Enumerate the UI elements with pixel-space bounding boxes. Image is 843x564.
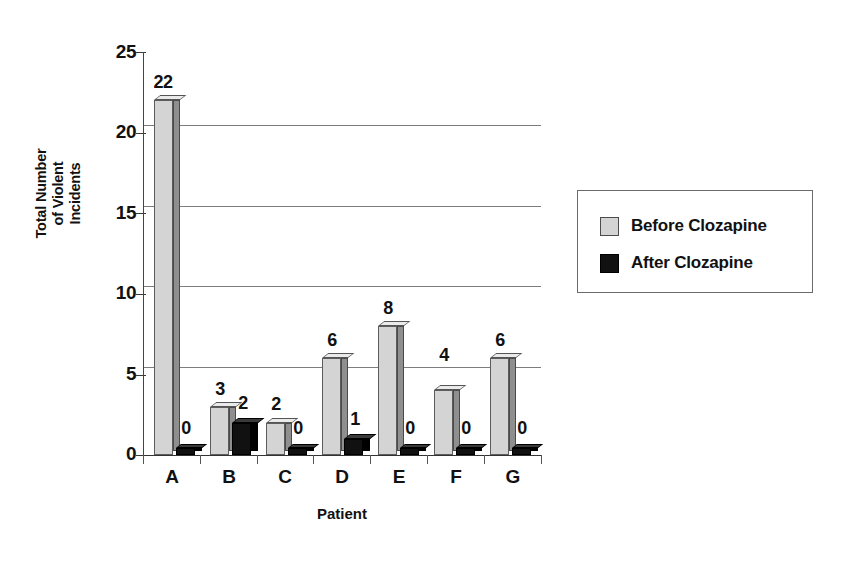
bar-front xyxy=(456,448,475,455)
bar-before-D xyxy=(322,358,341,455)
bar-label-after-D: 1 xyxy=(338,409,372,430)
legend-swatch-before-clozapine xyxy=(600,217,619,236)
y-tick-label-15: 15 xyxy=(96,202,136,224)
y-tick-mark-10 xyxy=(136,294,146,295)
y-tick-label-10: 10 xyxy=(96,282,136,304)
bar-side xyxy=(251,423,258,451)
bar-label-before-A: 22 xyxy=(146,72,180,93)
legend-label-before-clozapine: Before Clozapine xyxy=(631,216,767,236)
bar-front xyxy=(176,448,195,455)
bar-front xyxy=(232,423,251,455)
bar-after-G xyxy=(512,448,531,455)
bar-front xyxy=(210,407,229,455)
x-tick-label-D: D xyxy=(322,466,362,488)
bar-chart-figure: Total Number of Violent Incidents 25 20 … xyxy=(0,0,843,564)
bar-label-after-B: 2 xyxy=(226,393,260,414)
bar-label-before-D: 6 xyxy=(315,330,349,351)
legend-label-after-clozapine: After Clozapine xyxy=(631,253,753,273)
bar-after-E xyxy=(400,448,419,455)
x-tick-label-E: E xyxy=(379,466,419,488)
y-tick-label-5: 5 xyxy=(96,363,136,385)
bar-top xyxy=(490,353,522,358)
x-tick-mark-7 xyxy=(541,455,542,464)
x-tick-mark-4 xyxy=(370,455,371,464)
legend-item-after-clozapine: After Clozapine xyxy=(600,253,753,273)
x-tick-mark-1 xyxy=(200,455,201,464)
legend-item-before-clozapine: Before Clozapine xyxy=(600,216,767,236)
bar-top xyxy=(322,353,354,358)
gridline-15 xyxy=(144,206,541,207)
x-tick-label-C: C xyxy=(265,466,305,488)
x-tick-mark-0 xyxy=(143,455,144,464)
y-tick-mark-20 xyxy=(136,133,146,134)
legend-swatch-after-clozapine xyxy=(600,254,619,273)
bar-front xyxy=(512,448,531,455)
x-tick-mark-5 xyxy=(427,455,428,464)
bar-front xyxy=(490,358,509,455)
bar-front xyxy=(154,100,173,455)
y-tick-label-25: 25 xyxy=(96,41,136,63)
x-axis-title: Patient xyxy=(143,505,541,522)
bar-after-F xyxy=(456,448,475,455)
x-tick-label-B: B xyxy=(209,466,249,488)
bar-label-before-F: 4 xyxy=(427,345,461,366)
bar-front xyxy=(322,358,341,455)
gridline-20 xyxy=(144,125,541,126)
bar-before-B xyxy=(210,407,229,455)
bar-front xyxy=(400,448,419,455)
bar-label-before-C: 2 xyxy=(259,394,293,415)
bar-label-before-G: 6 xyxy=(483,330,517,351)
bar-before-G xyxy=(490,358,509,455)
bar-top xyxy=(154,95,186,100)
y-tick-label-20: 20 xyxy=(96,121,136,143)
bar-top xyxy=(176,444,207,448)
bar-label-after-C: 0 xyxy=(281,418,315,439)
x-tick-label-G: G xyxy=(493,466,533,488)
bar-top xyxy=(400,444,431,448)
bar-after-C xyxy=(288,448,307,455)
bar-front xyxy=(344,439,363,455)
bar-top xyxy=(434,385,466,390)
y-axis-line xyxy=(143,52,144,456)
bar-side xyxy=(363,439,370,451)
bar-top xyxy=(512,444,543,448)
bar-top xyxy=(378,321,410,326)
y-axis-title-line-1: Total Number xyxy=(33,99,50,289)
bar-side xyxy=(173,100,180,451)
bar-top xyxy=(456,444,487,448)
bar-label-after-A: 0 xyxy=(169,418,203,439)
bar-after-A xyxy=(176,448,195,455)
bar-after-B xyxy=(232,423,251,455)
bar-before-A xyxy=(154,100,173,455)
y-axis-title-line-2: of Violent xyxy=(50,99,67,289)
bar-after-D xyxy=(344,439,363,455)
bar-label-before-E: 8 xyxy=(371,298,405,319)
bar-top xyxy=(288,444,319,448)
y-tick-mark-25 xyxy=(136,52,146,53)
bar-label-after-F: 0 xyxy=(449,418,483,439)
bar-top xyxy=(344,434,376,439)
bar-label-after-E: 0 xyxy=(393,418,427,439)
x-axis-line xyxy=(143,455,541,456)
x-tick-label-F: F xyxy=(436,466,476,488)
bar-label-after-G: 0 xyxy=(505,418,539,439)
x-tick-mark-6 xyxy=(484,455,485,464)
y-tick-label-0: 0 xyxy=(96,443,136,465)
bar-front xyxy=(288,448,307,455)
chart-legend: Before Clozapine After Clozapine xyxy=(577,190,813,293)
y-tick-mark-5 xyxy=(136,375,146,376)
bar-top xyxy=(232,418,264,423)
y-axis-title-line-3: Incidents xyxy=(67,99,84,289)
gridline-10 xyxy=(144,286,541,287)
x-tick-mark-3 xyxy=(313,455,314,464)
x-tick-label-A: A xyxy=(152,466,192,488)
x-tick-mark-2 xyxy=(257,455,258,464)
y-tick-mark-15 xyxy=(136,213,146,214)
y-axis-title: Total Number of Violent Incidents xyxy=(33,99,84,289)
